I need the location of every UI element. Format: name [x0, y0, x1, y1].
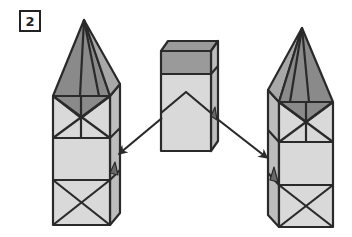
instruction-diagram: 2: [0, 0, 352, 237]
left-tower: [53, 20, 120, 225]
arrow-to-left-tower: [120, 118, 162, 153]
center-piece: [161, 41, 218, 151]
diagram-svg: [0, 0, 352, 237]
arrow-to-right-tower: [216, 118, 266, 157]
right-tower: [268, 28, 333, 227]
